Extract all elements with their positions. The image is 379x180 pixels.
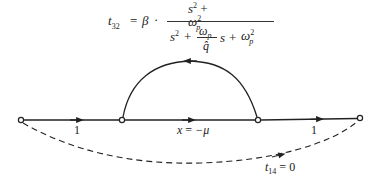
branch-3-4 (261, 119, 357, 121)
feedback-arc-3-2 (123, 61, 257, 117)
branch-3-4-gain: 1 (311, 124, 317, 136)
branch-1-2-gain: 1 (74, 124, 80, 136)
node-2 (119, 117, 124, 122)
branch-2-3-gain: x = −μ (177, 124, 209, 136)
node-3 (255, 117, 260, 122)
signal-flow-graph (0, 0, 379, 180)
node-1 (18, 117, 23, 122)
dashed-branch-gain: t14 = 0 (265, 161, 295, 176)
node-4 (357, 115, 362, 120)
